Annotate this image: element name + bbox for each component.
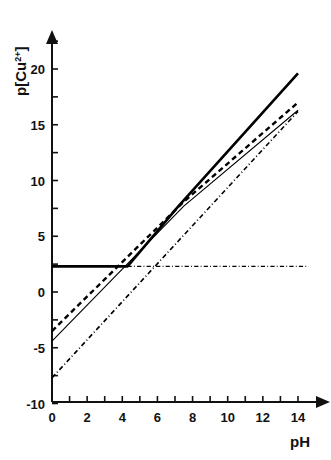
x-tick-label: 12 — [256, 410, 270, 425]
y-tick-label: 5 — [38, 229, 45, 244]
y-axis-title-superscript: 2+ — [13, 52, 23, 62]
x-axis-title: pH — [290, 433, 310, 450]
series-dashed-line — [52, 102, 298, 331]
x-axis-tick-labels: 02468101214 — [48, 410, 306, 425]
data-series-group — [52, 73, 309, 377]
x-tick-label: 6 — [154, 410, 161, 425]
series-thin-solid-line — [52, 110, 298, 341]
y-axis-tick-labels: -10-505101520 — [26, 62, 45, 412]
y-axis-title-close: ] — [12, 47, 29, 52]
x-tick-label: 2 — [84, 410, 91, 425]
x-tick-label: 0 — [48, 410, 55, 425]
series-dash-dot-rising-line — [52, 111, 298, 377]
x-tick-label: 4 — [119, 410, 127, 425]
ph-vs-pcu-line-chart: 02468101214 -10-505101520 pH p[Cu2+] — [0, 0, 331, 460]
x-tick-label: 14 — [291, 410, 306, 425]
y-axis-title: p[Cu2+] — [12, 47, 29, 96]
y-tick-label: 20 — [31, 62, 45, 77]
y-tick-label: -10 — [26, 397, 45, 412]
y-tick-label: -5 — [33, 341, 45, 356]
series-thick-solid-line — [52, 73, 298, 266]
x-tick-label: 8 — [189, 410, 196, 425]
y-axis-title-base: p[Cu — [12, 62, 29, 96]
y-axis-title-group: p[Cu2+] — [12, 47, 29, 96]
y-tick-label: 10 — [31, 174, 45, 189]
y-tick-label: 0 — [38, 285, 45, 300]
chart-container: 02468101214 -10-505101520 pH p[Cu2+] — [0, 0, 331, 460]
x-tick-label: 10 — [220, 410, 234, 425]
y-tick-label: 15 — [31, 118, 45, 133]
